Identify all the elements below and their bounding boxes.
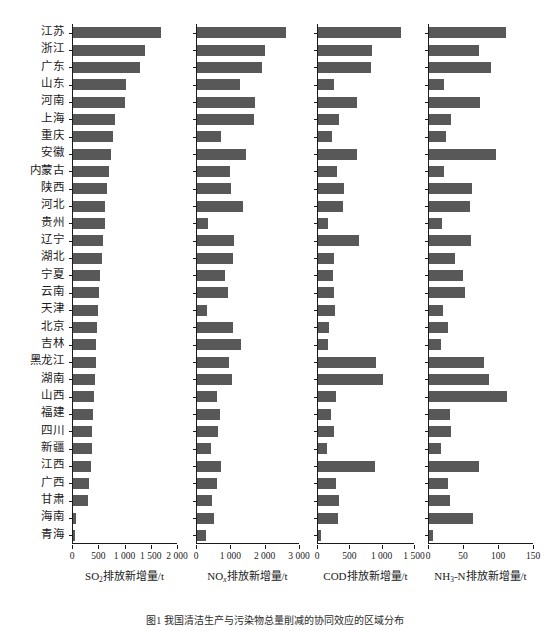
bar-nh3n-14: [429, 270, 463, 281]
category-label-0: 江苏: [41, 23, 64, 40]
bar-nox-26: [197, 478, 217, 489]
bar-so2-2: [73, 62, 140, 73]
x-tick-label-cod-3: 1 500: [403, 550, 424, 562]
panel-cod: 05001 0001 500COD排放新增量/t: [317, 24, 414, 544]
bar-cod-1: [318, 45, 372, 56]
x-tick-label-cod-2: 1 000: [371, 550, 392, 562]
bar-cod-14: [318, 270, 333, 281]
bar-so2-16: [73, 305, 98, 316]
bar-cod-13: [318, 253, 334, 264]
bar-cod-28: [318, 513, 338, 524]
category-label-7: 安徽: [41, 144, 64, 161]
bar-nh3n-3: [429, 79, 444, 90]
bar-nh3n-1: [429, 45, 479, 56]
category-label-26: 广西: [41, 474, 64, 491]
bar-nox-7: [197, 149, 246, 160]
bar-nox-16: [197, 305, 207, 316]
bar-nh3n-28: [429, 513, 473, 524]
bar-so2-12: [73, 235, 103, 246]
category-label-24: 新疆: [41, 439, 64, 456]
plot-area-nox: [196, 24, 299, 544]
bar-so2-29: [73, 530, 75, 541]
category-label-28: 海南: [41, 508, 64, 525]
x-tick-cod-1: [349, 545, 350, 549]
bar-nh3n-19: [429, 357, 484, 368]
x-axis-nox: [196, 543, 299, 544]
category-label-column: 江苏浙江广东山东河南上海重庆安徽内蒙古陕西河北贵州辽宁湖北宁夏云南天津北京吉林黑…: [0, 24, 68, 544]
bar-nox-8: [197, 166, 230, 177]
category-label-23: 四川: [41, 422, 64, 439]
x-tick-label-nox-1: 1 000: [220, 550, 241, 562]
bar-nh3n-6: [429, 131, 446, 142]
bar-nox-18: [197, 339, 241, 350]
bar-cod-17: [318, 322, 329, 333]
bar-so2-17: [73, 322, 97, 333]
bar-cod-5: [318, 114, 339, 125]
panel-nh3n: 050100150NH3-N排放新增量/t: [428, 24, 533, 544]
x-tick-nox-2: [265, 545, 266, 549]
panel-so2: 05001 0001 5002 000SO2排放新增量/t: [72, 24, 177, 544]
bar-nox-19: [197, 357, 229, 368]
figure-container: 江苏浙江广东山东河南上海重庆安徽内蒙古陕西河北贵州辽宁湖北宁夏云南天津北京吉林黑…: [0, 0, 550, 631]
bar-nh3n-27: [429, 495, 450, 506]
x-tick-label-cod-0: 0: [315, 550, 320, 562]
x-tick-label-so2-1: 500: [91, 550, 105, 562]
category-label-15: 云南: [41, 283, 64, 300]
bar-so2-26: [73, 478, 89, 489]
figure-caption: 图1 我国清洁生产与污染物总量削减的协同效应的区域分布: [0, 612, 550, 631]
bar-so2-0: [73, 27, 161, 38]
bar-cod-18: [318, 339, 328, 350]
bar-nox-23: [197, 426, 218, 437]
x-tick-label-nh3n-0: 0: [426, 550, 431, 562]
bar-cod-23: [318, 426, 334, 437]
bar-cod-24: [318, 443, 327, 454]
bar-so2-6: [73, 131, 113, 142]
category-label-20: 湖南: [41, 370, 64, 387]
bar-nh3n-5: [429, 114, 451, 125]
bar-so2-10: [73, 201, 105, 212]
bar-nh3n-15: [429, 287, 465, 298]
category-label-22: 福建: [41, 404, 64, 421]
bar-so2-4: [73, 97, 125, 108]
x-tick-nh3n-1: [463, 545, 464, 549]
bar-nox-21: [197, 391, 217, 402]
bar-so2-28: [73, 513, 76, 524]
x-tick-nh3n-2: [498, 545, 499, 549]
bar-cod-2: [318, 62, 371, 73]
bar-so2-15: [73, 287, 99, 298]
bar-cod-25: [318, 461, 375, 472]
category-label-10: 河北: [41, 196, 64, 213]
bar-so2-11: [73, 218, 105, 229]
category-label-11: 贵州: [41, 214, 64, 231]
bar-nox-28: [197, 513, 214, 524]
x-tick-nox-0: [196, 545, 197, 549]
bar-cod-10: [318, 201, 343, 212]
y-axis-nh3n: [428, 24, 429, 544]
x-tick-label-nox-3: 3 000: [288, 550, 309, 562]
category-label-21: 山西: [41, 387, 64, 404]
bar-cod-16: [318, 305, 335, 316]
category-label-17: 北京: [41, 318, 64, 335]
bar-nox-17: [197, 322, 233, 333]
bar-nh3n-26: [429, 478, 448, 489]
category-label-14: 宁夏: [41, 266, 64, 283]
bar-nh3n-29: [429, 530, 433, 541]
bar-nh3n-9: [429, 183, 472, 194]
category-label-2: 广东: [41, 58, 64, 75]
bar-nox-2: [197, 62, 262, 73]
bar-cod-29: [318, 530, 321, 541]
bar-cod-22: [318, 409, 331, 420]
x-tick-nox-3: [299, 545, 300, 549]
bar-nh3n-12: [429, 235, 471, 246]
x-tick-label-nh3n-1: 50: [458, 550, 468, 562]
x-tick-so2-3: [151, 545, 152, 549]
x-axis-title-nh3n: NH3-N排放新增量/t: [428, 567, 533, 583]
bar-nh3n-21: [429, 391, 507, 402]
panel-nox: 01 0002 0003 000NOx排放新增量/t: [196, 24, 299, 544]
bar-nox-13: [197, 253, 233, 264]
bar-nh3n-17: [429, 322, 448, 333]
bar-nh3n-7: [429, 149, 496, 160]
bar-so2-14: [73, 270, 100, 281]
x-tick-nh3n-0: [428, 545, 429, 549]
category-label-1: 浙江: [41, 40, 64, 57]
